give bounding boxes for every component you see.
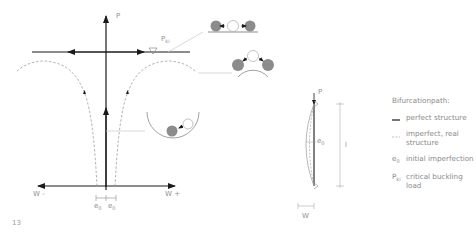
- legend-item-imperfect: imperfect, real structure: [392, 129, 476, 147]
- neutral-equilibrium-illustration: [208, 21, 258, 33]
- column-length-label: l: [345, 142, 347, 149]
- level-triangle-icon: [149, 48, 157, 54]
- e0-left-label: e0: [94, 203, 102, 211]
- w-positive-label: W +: [165, 191, 180, 198]
- legend-item-pki: Pki critical buckling load: [392, 172, 476, 190]
- figure-number: 13: [12, 219, 21, 227]
- column-w-label: W: [302, 213, 309, 220]
- e0-right-label: e0: [108, 203, 116, 211]
- column-load-label: P: [318, 89, 322, 96]
- stable-equilibrium-illustration: [147, 112, 199, 138]
- legend-item-perfect: perfect structure: [392, 113, 476, 122]
- imperfection-dimension: [96, 195, 116, 201]
- critical-load-label: Pki: [161, 36, 170, 44]
- column-diagram: [298, 93, 344, 209]
- load-label: P: [116, 13, 120, 20]
- legend-item-e0: e0 initial imperfection: [392, 154, 476, 165]
- unstable-equilibrium-illustration: [232, 51, 274, 78]
- legend-title: Bifurcationpath:: [392, 96, 476, 105]
- legend: Bifurcationpath: perfect structure imper…: [392, 96, 476, 197]
- critical-load-line: [32, 48, 190, 54]
- column-e0-label: e0: [317, 138, 325, 146]
- w-negative-label: W -: [33, 191, 45, 198]
